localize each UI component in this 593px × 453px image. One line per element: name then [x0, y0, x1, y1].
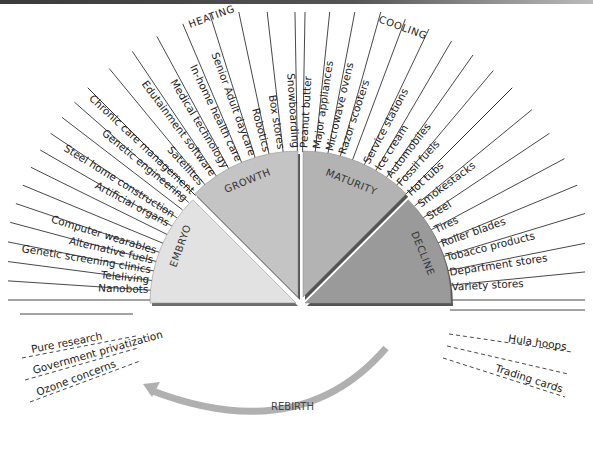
decline-item: Variety stores	[451, 277, 524, 293]
rebirth-left-items: Pure researchGovernment privatizationOzo…	[22, 328, 164, 402]
rebirth-label: REBIRTH	[271, 401, 314, 412]
rebirth-right-items: Hula hoopsTrading cards	[443, 332, 572, 397]
cooling-label: COOLING	[377, 14, 428, 42]
rebirth-section: REBIRTH	[143, 348, 386, 412]
rebirth-arrow-icon	[150, 348, 386, 411]
rebirth-right-item: Hula hoops	[508, 332, 568, 352]
life-cycle-diagram: EMBRYOGROWTHMATURITYDECLINENanobotsTelel…	[0, 0, 593, 453]
heating-label: HEATING	[187, 3, 236, 30]
rebirth-right-item: Trading cards	[493, 361, 565, 394]
